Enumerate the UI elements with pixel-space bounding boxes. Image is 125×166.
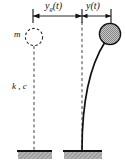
mass-label: m <box>14 30 21 39</box>
yg-argument: (t) <box>53 0 62 11</box>
left-ground-support <box>18 151 52 159</box>
arrowhead-y-left <box>82 14 88 18</box>
dashed-mass-circle <box>25 28 42 45</box>
right-ground-support <box>64 151 102 159</box>
filled-mass-circle <box>99 23 120 44</box>
arrowhead-yg-right <box>76 14 83 19</box>
figure-container: yg(t) y(t) m k , c <box>0 0 125 166</box>
curved-column <box>82 42 105 150</box>
ground-displacement-label: yg(t) <box>45 1 62 12</box>
arrowhead-y-right <box>106 14 112 18</box>
arrowhead-yg-left <box>33 14 40 19</box>
undeformed-system-group <box>17 28 52 159</box>
deformed-system-group <box>63 22 121 159</box>
structure-displacement-label: y(t) <box>86 1 100 11</box>
stiffness-damping-label: k , c <box>12 82 27 91</box>
y-argument: (t) <box>90 0 99 11</box>
